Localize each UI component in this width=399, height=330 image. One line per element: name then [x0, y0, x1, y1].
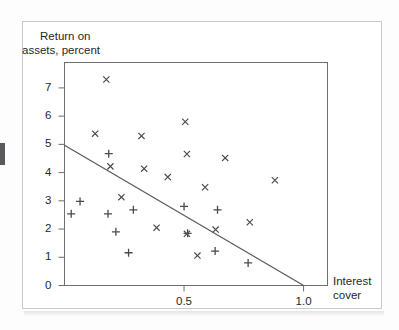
data-point-x: [247, 219, 253, 225]
data-point-x: [182, 119, 188, 125]
scatter-plot: [0, 0, 399, 330]
data-point-plus: [211, 247, 219, 255]
data-point-x: [92, 131, 98, 137]
data-point-plus: [76, 197, 84, 205]
data-point-plus: [244, 259, 252, 267]
axis-ticks: [59, 88, 304, 292]
plot-border: [65, 63, 328, 286]
data-point-plus: [180, 202, 188, 210]
data-point-x: [202, 184, 208, 190]
data-point-plus: [129, 206, 137, 214]
data-point-x: [103, 76, 109, 82]
data-point-x: [153, 225, 159, 231]
data-point-x: [165, 174, 171, 180]
data-point-plus: [67, 210, 75, 218]
data-point-x: [194, 252, 200, 258]
data-point-plus: [112, 228, 120, 236]
plot-frame: [65, 63, 328, 286]
fit-line-segment: [65, 145, 304, 285]
data-point-x: [272, 177, 278, 183]
data-point-plus: [104, 210, 112, 218]
data-point-x: [118, 194, 124, 200]
data-point-x: [141, 166, 147, 172]
data-point-x: [107, 163, 113, 169]
figure-page: Return on assets, percent Interest cover…: [0, 0, 399, 330]
data-point-x: [184, 151, 190, 157]
data-point-x: [138, 133, 144, 139]
data-point-x: [222, 155, 228, 161]
data-point-x: [213, 227, 219, 233]
regression-line: [65, 145, 304, 285]
data-point-plus: [125, 249, 133, 257]
data-point-plus: [214, 206, 222, 214]
data-point-plus: [105, 150, 113, 158]
data-markers: [67, 76, 278, 267]
